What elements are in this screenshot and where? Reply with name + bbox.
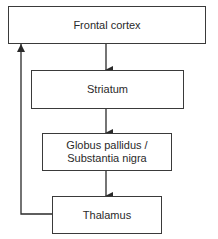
node-label: Globus pallidus / Substantia nigra <box>66 139 147 165</box>
node-label: Striatum <box>87 83 128 96</box>
node-globus-pallidus-substantia-nigra: Globus pallidus / Substantia nigra <box>42 133 172 171</box>
node-frontal-cortex: Frontal cortex <box>8 6 206 44</box>
node-label: Thalamus <box>83 209 131 222</box>
node-label: Frontal cortex <box>73 19 140 32</box>
node-striatum: Striatum <box>31 70 184 109</box>
node-thalamus: Thalamus <box>52 196 162 234</box>
feedback-arrowhead-icon <box>17 44 25 52</box>
